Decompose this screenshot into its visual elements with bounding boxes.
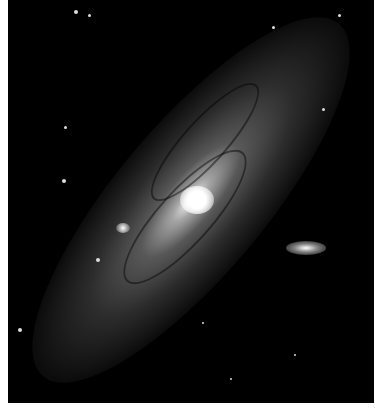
companion-galaxy (116, 223, 130, 233)
galaxy-photo (8, 0, 374, 403)
star (74, 10, 78, 14)
star (88, 14, 91, 17)
star (272, 26, 275, 29)
star (64, 126, 67, 129)
star (96, 258, 100, 262)
star (62, 179, 66, 183)
galaxy-core (180, 186, 214, 214)
star (18, 328, 22, 332)
star (338, 14, 341, 17)
star (294, 354, 296, 356)
star (202, 322, 204, 324)
star (230, 378, 232, 380)
companion-galaxy (286, 241, 326, 255)
star (322, 108, 325, 111)
